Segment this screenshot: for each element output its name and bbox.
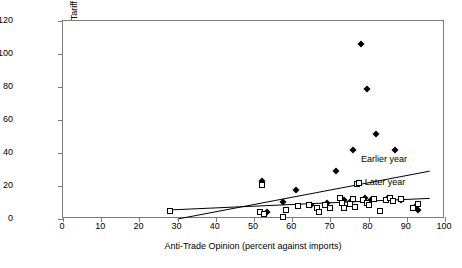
legend-marker-later-year bbox=[356, 180, 362, 186]
y-tick-label: 0 bbox=[0, 214, 13, 223]
y-tick-mark bbox=[58, 21, 63, 22]
data-point-later-year bbox=[261, 211, 267, 217]
x-tick-label: 90 bbox=[391, 222, 421, 231]
x-tick-label: 60 bbox=[276, 222, 306, 231]
data-point-later-year bbox=[350, 196, 356, 202]
data-point-later-year bbox=[259, 182, 265, 188]
data-point-later-year bbox=[283, 207, 289, 213]
x-tick-label: 100 bbox=[429, 222, 459, 231]
y-tick-label: 100 bbox=[0, 49, 13, 58]
scatter-plot-figure: Unweighted Average Tariff Rate Earlier y… bbox=[0, 0, 462, 268]
data-point-later-year bbox=[280, 214, 286, 220]
data-point-later-year bbox=[352, 204, 358, 210]
x-axis-title: Anti-Trade Opinion (percent against impo… bbox=[62, 241, 444, 251]
data-point-later-year bbox=[398, 196, 404, 202]
x-tick-label: 70 bbox=[314, 222, 344, 231]
x-tick-label: 40 bbox=[200, 222, 230, 231]
data-point-later-year bbox=[167, 208, 173, 214]
x-tick-label: 30 bbox=[162, 222, 192, 231]
trend-lines bbox=[63, 21, 445, 219]
plot-area: Earlier yearLater year bbox=[62, 20, 444, 218]
x-tick-label: 80 bbox=[353, 222, 383, 231]
y-tick-label: 60 bbox=[0, 115, 13, 124]
x-tick-label: 50 bbox=[238, 222, 268, 231]
data-point-later-year bbox=[390, 198, 396, 204]
y-tick-label: 80 bbox=[0, 82, 13, 91]
x-tick-label: 20 bbox=[123, 222, 153, 231]
data-point-later-year bbox=[377, 208, 383, 214]
data-point-later-year bbox=[295, 203, 301, 209]
annotation-earlier-year: Earlier year bbox=[361, 155, 407, 164]
data-point-later-year bbox=[371, 196, 377, 202]
y-tick-mark bbox=[58, 54, 63, 55]
y-tick-mark bbox=[58, 153, 63, 154]
y-tick-label: 20 bbox=[0, 181, 13, 190]
y-tick-mark bbox=[58, 120, 63, 121]
x-tick-label: 10 bbox=[85, 222, 115, 231]
y-tick-label: 120 bbox=[0, 16, 13, 25]
data-point-later-year bbox=[327, 205, 333, 211]
data-point-later-year bbox=[306, 202, 312, 208]
y-tick-mark bbox=[58, 87, 63, 88]
y-tick-label: 40 bbox=[0, 148, 13, 157]
x-tick-label: 0 bbox=[47, 222, 77, 231]
data-point-later-year bbox=[316, 209, 322, 215]
data-point-later-year bbox=[415, 201, 421, 207]
y-tick-mark bbox=[58, 186, 63, 187]
annotation-later-year: Later year bbox=[365, 178, 406, 187]
data-point-later-year bbox=[366, 202, 372, 208]
